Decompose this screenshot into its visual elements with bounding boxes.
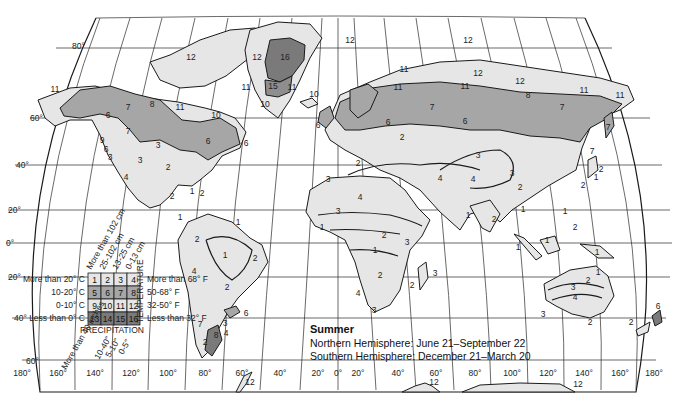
- zone-label-yamal: 11: [461, 81, 470, 91]
- lat-label: 80°: [72, 41, 85, 51]
- lat-label: 60°: [26, 356, 39, 366]
- iceland: [300, 98, 318, 108]
- zone-label-canada-north: 7: [126, 102, 131, 112]
- zone-label-australia-e: 2: [586, 275, 591, 285]
- legend: 12345678910111213141516 More than 20° C …: [23, 207, 208, 371]
- zone-label-new-guinea: 1: [595, 247, 600, 257]
- zone-label-central-america: 1: [178, 212, 183, 222]
- lat-label: 40°: [14, 313, 27, 323]
- zone-label-cape: 3: [372, 305, 377, 315]
- lat-line-80n: [96, 16, 585, 18]
- zone-label-british-isles: 6: [316, 120, 321, 130]
- zone-label-mexico: 2: [170, 191, 175, 201]
- legend-cell-value: 7: [118, 288, 123, 298]
- temp-c-row-label: More than 20° C: [23, 274, 85, 284]
- zone-label-japan-c: 2: [581, 180, 586, 190]
- zone-label-india-w: 1: [466, 210, 471, 220]
- lon-label: 100°: [503, 368, 521, 378]
- australia: [544, 266, 614, 318]
- zone-label-canada-east: 6: [206, 136, 211, 146]
- zone-label-russia-west: 7: [430, 102, 435, 112]
- zone-label-franz-josef: 12: [463, 35, 473, 45]
- zone-label-kamchatka: 7: [606, 122, 611, 132]
- zone-label-australia-mid: 3: [571, 282, 576, 292]
- zone-label-greenland-sw: 11: [242, 82, 251, 92]
- legend-cell-value: 14: [103, 314, 113, 324]
- lon-label: 40°: [274, 368, 287, 378]
- zone-label-europe: 2: [400, 132, 405, 142]
- zone-label-philippines-s: 2: [573, 222, 578, 232]
- zone-label-philippines: 1: [563, 206, 568, 216]
- zone-label-kola: 11: [394, 82, 403, 92]
- legend-cell-value: 6: [105, 288, 110, 298]
- zone-label-antarctica-a: 12: [429, 377, 439, 387]
- zone-label-madagascar-w: 2: [410, 280, 415, 290]
- lon-label: 20°: [352, 368, 365, 378]
- lon-label: 60°: [430, 368, 443, 378]
- southern-hemisphere-dates: Southern Hemisphere: December 21–March 2…: [310, 350, 531, 362]
- legend-cell-value: 2: [105, 275, 110, 285]
- zone-label-india-s: 2: [492, 214, 497, 224]
- zone-label-antarctic-peninsula: 12: [245, 377, 255, 387]
- zone-label-florida: 1: [190, 186, 195, 196]
- lat-label: 0°: [6, 238, 14, 248]
- zone-label-tierra-del-fuego: 2: [203, 337, 208, 347]
- zone-label-chukotka: 11: [616, 90, 625, 100]
- temperature-title: TEMPERATURE: [135, 259, 145, 323]
- temp-f-row-label: 32-50° F: [147, 300, 180, 310]
- madagascar: [418, 262, 428, 290]
- zone-label-nw-south-america: 2: [195, 234, 200, 244]
- new-zealand-south: [636, 322, 650, 336]
- zone-label-canada-northeast: 8: [150, 99, 155, 109]
- antarctica-b: [462, 383, 575, 392]
- zone-label-greenland-east: 11: [288, 82, 297, 92]
- zone-label-central-africa-n: 2: [382, 230, 387, 240]
- world-climate-map: 1167811121066796334321221161215111011106…: [0, 0, 676, 400]
- zone-label-madagascar-e: 3: [433, 268, 438, 278]
- lon-label: 40°: [392, 368, 405, 378]
- temp-c-row-label: 0-10° C: [56, 300, 85, 310]
- zone-label-amazon: 1: [223, 250, 228, 260]
- lat-label: 40°: [16, 160, 29, 170]
- zone-label-borneo: 1: [545, 235, 550, 245]
- temp-f-row-label: 50-68° F: [147, 287, 180, 297]
- zone-label-ne-brazil: 2: [253, 253, 258, 263]
- zone-label-caribbean: 2: [200, 188, 205, 198]
- zone-label-mediterranean: 2: [356, 158, 361, 168]
- legend-cell-value: 15: [116, 314, 126, 324]
- zone-label-usa-east: 2: [166, 162, 171, 172]
- zone-label-southeast-asia: 1: [521, 204, 526, 214]
- zone-label-east-africa: 3: [405, 237, 410, 247]
- zone-label-nz-south: 2: [629, 317, 634, 327]
- zone-label-siberia-north: 12: [515, 76, 525, 86]
- zone-label-greenland-south: 10: [260, 99, 270, 109]
- zone-label-greenland-west: 12: [252, 52, 262, 62]
- zone-label-california: 3: [108, 152, 113, 162]
- lat-label: 60°: [30, 113, 43, 123]
- temp-c-row-label: 10-20° C: [51, 287, 85, 297]
- zone-label-taymyr: 12: [473, 68, 483, 78]
- zone-label-australia-center: 4: [573, 292, 578, 302]
- zone-label-sahara: 4: [358, 192, 363, 202]
- zone-label-greenland-ice: 16: [280, 52, 290, 62]
- zone-label-southern-africa: 2: [378, 270, 383, 280]
- new-zealand-north: [652, 310, 662, 326]
- zone-label-patagonia-coast: 4: [224, 328, 229, 338]
- zone-label-siberia-ne: 11: [580, 85, 589, 95]
- zone-label-siberia-belt: 8: [526, 90, 531, 100]
- lon-label: 80°: [199, 368, 212, 378]
- zone-label-novaya-zemlya: 11: [400, 64, 409, 74]
- zone-label-congo: 1: [373, 245, 378, 255]
- zone-label-patagonia: 8: [214, 330, 219, 340]
- zone-label-tibet-rim: 3: [510, 168, 515, 178]
- zone-label-bc-coast: 7: [126, 126, 131, 136]
- lat-label: 20°: [8, 205, 21, 215]
- legend-cell-value: 5: [92, 288, 97, 298]
- zone-label-mojave: 4: [124, 172, 129, 182]
- temp-f-row-label: More than 68° F: [147, 274, 208, 284]
- zone-label-svalbard: 12: [345, 35, 355, 45]
- zone-label-australia-ne: 1: [596, 267, 601, 277]
- zone-label-sahel: 3: [336, 206, 341, 216]
- season-title: Summer: [310, 323, 355, 335]
- lon-label: 120°: [122, 368, 140, 378]
